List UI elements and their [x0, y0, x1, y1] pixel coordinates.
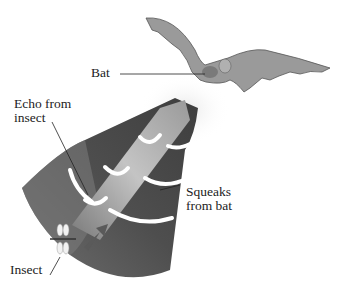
echolocation-diagram — [0, 0, 338, 303]
label-squeaks-line2: from bat — [186, 199, 232, 212]
label-squeaks-line1: Squeaks — [186, 185, 231, 198]
label-echo-line2: insect — [14, 111, 46, 124]
insect-leader-line — [50, 257, 60, 275]
label-bat: Bat — [91, 66, 110, 79]
label-insect: Insect — [10, 263, 42, 276]
label-echo-line1: Echo from — [14, 97, 71, 110]
